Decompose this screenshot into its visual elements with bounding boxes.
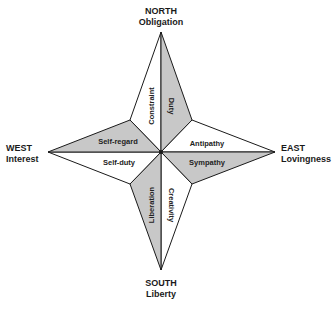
west-title: WEST [6,143,46,154]
label-creativity: Creativity [167,188,176,223]
direction-north: NORTH Obligation [126,6,196,28]
south-subtitle: Liberty [126,289,196,300]
label-sympathy: Sympathy [189,158,226,167]
center-point [159,150,163,154]
label-duty: Duty [167,98,176,115]
south-title: SOUTH [126,278,196,289]
direction-west: WEST Interest [6,143,46,165]
label-self-regard: Self-regard [98,137,138,146]
label-liberation: Liberation [147,186,156,223]
label-self-duty: Self-duty [103,158,136,167]
label-constraint: Constraint [147,87,156,125]
north-title: NORTH [126,6,196,17]
direction-east: EAST Lovingness [281,143,334,165]
west-subtitle: Interest [6,154,46,165]
label-antipathy: Antipathy [190,139,225,148]
north-subtitle: Obligation [126,17,196,28]
east-title: EAST [281,143,334,154]
direction-south: SOUTH Liberty [126,278,196,300]
east-subtitle: Lovingness [281,154,334,165]
